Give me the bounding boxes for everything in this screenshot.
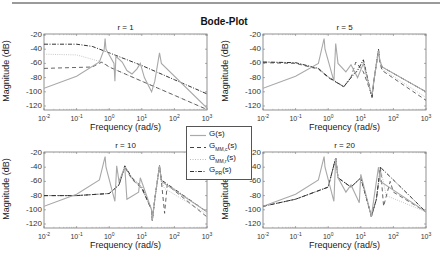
x-tick-label: 100 bbox=[317, 231, 339, 240]
subplot-title: r = 20 bbox=[263, 141, 426, 150]
y-tick-label: -80 bbox=[235, 191, 261, 200]
x-tick-label: 103 bbox=[415, 231, 437, 240]
y-tick-label: -100 bbox=[235, 205, 261, 214]
legend-item-g: G(s) bbox=[189, 129, 249, 141]
legend-line-dotted-icon bbox=[189, 158, 207, 161]
x-tick-label: 101 bbox=[350, 231, 372, 240]
y-tick-label: -120 bbox=[235, 219, 261, 228]
legend-item-gmmc: GMM,c(s) bbox=[189, 141, 249, 153]
legend-line-dashed-icon bbox=[189, 146, 207, 149]
x-tick-label: 102 bbox=[382, 231, 404, 240]
legend-line-solid-icon bbox=[189, 134, 207, 137]
x-tick-label: 10-1 bbox=[285, 231, 307, 240]
legend-item-gmmr: GMM,r(s) bbox=[189, 153, 249, 165]
x-axis-label: Frequency (rad/s) bbox=[263, 240, 426, 250]
x-tick-label: 10-2 bbox=[252, 231, 274, 240]
legend: G(s) GMM,c(s) GMM,r(s) GPR(s) bbox=[186, 126, 252, 180]
legend-item-gpr: GPR(s) bbox=[189, 165, 249, 177]
legend-line-dashdot-icon bbox=[189, 170, 207, 173]
